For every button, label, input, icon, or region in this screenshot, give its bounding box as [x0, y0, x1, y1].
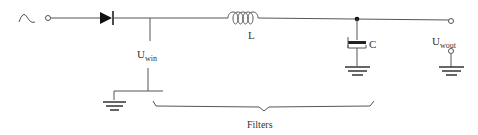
ground-icon-output — [439, 67, 464, 75]
ground-icon-left — [103, 91, 163, 110]
diode-icon — [100, 11, 113, 25]
input-terminal — [46, 16, 51, 21]
inductor-icon — [228, 12, 258, 24]
wire-inductor-to-output — [258, 18, 450, 20]
uwout-label: Uwout — [432, 35, 457, 50]
circuit-diagram: Uwin L C Uwout Filters — [0, 0, 478, 135]
filters-brace — [153, 101, 374, 111]
uwin-label: Uwin — [137, 48, 157, 63]
ac-source-icon — [19, 14, 35, 22]
capacitor-label: C — [369, 38, 376, 50]
output-terminal-bottom — [449, 49, 454, 54]
output-terminal-top — [449, 19, 454, 24]
inductor-label: L — [248, 29, 255, 41]
ground-icon-capacitor — [345, 67, 370, 75]
filters-label: Filters — [247, 119, 273, 130]
